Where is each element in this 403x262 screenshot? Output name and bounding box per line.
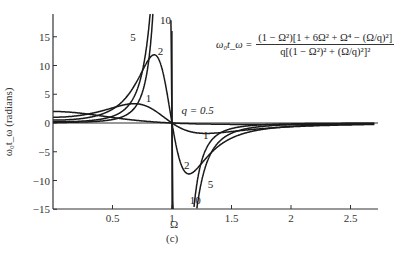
curve-label: 1 bbox=[203, 129, 209, 141]
formula-denominator: q[(1 − Ω²)² + (Ω/q)²]² bbox=[280, 45, 370, 57]
curve-label: 2 bbox=[158, 45, 164, 57]
formula: ω₀t_ω = (1 − Ω²)[1 + 6Ω² + Ω⁴ − (Ω/q)²] … bbox=[216, 32, 394, 57]
x-axis-label: Ω bbox=[170, 218, 178, 230]
x-tick-label: 2.5 bbox=[344, 212, 358, 224]
y-tick-label: 10 bbox=[39, 60, 51, 72]
curve-label: 1 bbox=[146, 92, 152, 104]
curve-label: 10 bbox=[160, 14, 172, 26]
formula-numerator: (1 − Ω²)[1 + 6Ω² + Ω⁴ − (Ω/q)²] bbox=[256, 32, 394, 45]
curve-label: q = 0.5 bbox=[182, 104, 215, 116]
y-tick-label: 5 bbox=[45, 88, 51, 100]
x-tick-label: 0.5 bbox=[106, 212, 120, 224]
y-tick-label: 0 bbox=[45, 117, 51, 129]
formula-fraction: (1 − Ω²)[1 + 6Ω² + Ω⁴ − (Ω/q)²] q[(1 − Ω… bbox=[256, 32, 394, 57]
x-tick-label: 1.5 bbox=[225, 212, 239, 224]
formula-lhs: ω₀t_ω = bbox=[216, 39, 252, 50]
y-tick-label: 15 bbox=[39, 31, 51, 43]
x-ticks: 0.511.522.5 bbox=[106, 205, 358, 224]
curve-label: 5 bbox=[208, 178, 214, 190]
y-tick-label: −10 bbox=[33, 175, 51, 187]
curve-label: 2 bbox=[184, 159, 190, 171]
y-tick-label: −15 bbox=[33, 203, 51, 215]
curve-label: 5 bbox=[130, 31, 136, 43]
x-tick-label: 2 bbox=[288, 212, 294, 224]
figure-caption: (c) bbox=[166, 232, 178, 244]
y-axis-label: ω₀t_ω (radians) bbox=[2, 88, 14, 157]
y-tick-label: −5 bbox=[38, 146, 50, 158]
curve-label: 10 bbox=[190, 194, 202, 206]
